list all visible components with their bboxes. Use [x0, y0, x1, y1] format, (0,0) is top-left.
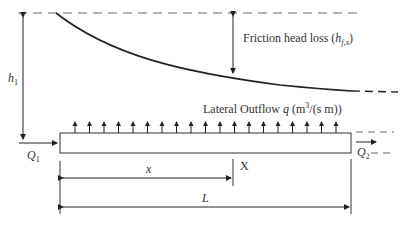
outflow-arrow-icon [290, 121, 295, 133]
q1-label: Q1 [27, 149, 40, 161]
outflow-arrow-icon [276, 121, 281, 133]
section-x-label: X [240, 160, 249, 172]
lateral-pipe [60, 133, 351, 153]
outflow-arrow-icon [102, 121, 107, 133]
outflow-arrows [73, 121, 339, 133]
outflow-arrow-icon [203, 121, 208, 133]
h1-label: h1 [8, 72, 18, 84]
outflow-arrow-icon [334, 121, 339, 133]
outflow-arrow-icon [305, 121, 310, 133]
outflow-arrow-icon [73, 121, 78, 133]
outflow-arrow-icon [160, 121, 165, 133]
outflow-arrow-icon [189, 121, 194, 133]
outflow-arrow-icon [116, 121, 121, 133]
outflow-arrow-icon [145, 121, 150, 133]
friction-head-loss-label: Friction head loss (hf,x) [243, 32, 353, 44]
lateral-outflow-label: Lateral Outflow q (m3/(s m)) [203, 103, 342, 115]
outflow-arrow-icon [319, 121, 324, 133]
q2-label: Q2 [357, 146, 370, 158]
hydraulic-grade-dashed-extension [352, 91, 398, 92]
outflow-arrow-icon [131, 121, 136, 133]
outflow-arrow-icon [174, 121, 179, 133]
outflow-arrow-icon [232, 121, 237, 133]
outflow-arrow-icon [218, 121, 223, 133]
hydraulic-grade-curve [56, 13, 352, 91]
outflow-arrow-icon [87, 121, 92, 133]
x-distance-label: x [146, 163, 151, 175]
outflow-arrow-icon [261, 121, 266, 133]
length-label: L [202, 192, 209, 204]
outflow-arrow-icon [247, 121, 252, 133]
